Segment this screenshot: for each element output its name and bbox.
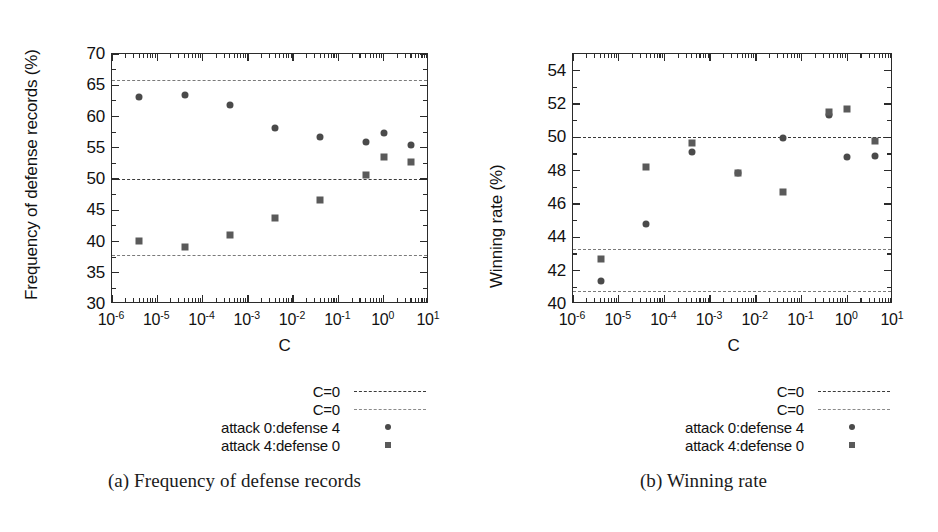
legend-label: attack 0:defense 4 bbox=[685, 419, 818, 436]
x-minor-tick bbox=[279, 54, 280, 58]
x-minor-tick bbox=[245, 298, 246, 302]
y-tick bbox=[420, 147, 427, 148]
y-tick bbox=[573, 103, 580, 104]
x-tick-label: 10-6 bbox=[559, 310, 586, 328]
x-minor-tick bbox=[586, 298, 587, 302]
x-minor-tick bbox=[170, 54, 171, 58]
x-tick bbox=[801, 295, 802, 302]
x-minor-tick bbox=[787, 298, 788, 302]
x-minor-tick bbox=[324, 54, 325, 58]
x-tick bbox=[247, 54, 248, 61]
x-minor-tick bbox=[306, 54, 307, 58]
x-tick-label: 10-5 bbox=[143, 310, 170, 328]
x-minor-tick bbox=[286, 298, 287, 302]
x-minor-tick bbox=[737, 298, 738, 302]
dashed-line-icon bbox=[818, 391, 890, 392]
x-minor-tick bbox=[616, 298, 617, 302]
x-minor-tick bbox=[424, 298, 425, 302]
x-minor-tick bbox=[594, 298, 595, 302]
legend-key-circle-marker bbox=[818, 420, 894, 434]
x-minor-tick bbox=[405, 298, 406, 302]
x-minor-tick bbox=[188, 298, 189, 302]
y-tick bbox=[112, 147, 119, 148]
plot-inner-b bbox=[573, 54, 891, 302]
x-minor-tick bbox=[291, 54, 292, 58]
x-tick bbox=[247, 295, 248, 302]
x-minor-tick bbox=[352, 298, 353, 302]
x-tick-label: 10-3 bbox=[234, 310, 261, 328]
x-tick-label: 10-5 bbox=[604, 310, 631, 328]
x-minor-tick bbox=[229, 298, 230, 302]
data-point-square bbox=[643, 164, 650, 171]
reference-line bbox=[573, 291, 891, 292]
x-tick-label: 10-2 bbox=[742, 310, 769, 328]
legend-a: C=0 C=0 attack 0:defense 4 attack 4:defe… bbox=[100, 382, 430, 454]
dashed-line-icon bbox=[354, 391, 426, 392]
x-minor-tick bbox=[882, 54, 883, 58]
x-minor-tick bbox=[320, 54, 321, 58]
x-minor-tick bbox=[705, 54, 706, 58]
y-minor-tick bbox=[423, 194, 427, 195]
y-tick bbox=[573, 203, 580, 204]
x-minor-tick bbox=[751, 298, 752, 302]
data-point-circle bbox=[780, 135, 787, 142]
x-minor-tick bbox=[794, 54, 795, 58]
y-tick bbox=[112, 116, 119, 117]
data-point-square bbox=[380, 153, 387, 160]
y-minor-tick bbox=[573, 153, 577, 154]
x-tick bbox=[112, 295, 113, 302]
y-tick-labels-b: 4042444648505254 bbox=[521, 53, 566, 303]
x-minor-tick bbox=[333, 54, 334, 58]
x-minor-tick bbox=[184, 298, 185, 302]
x-minor-tick bbox=[125, 298, 126, 302]
y-minor-tick bbox=[573, 253, 577, 254]
x-minor-tick bbox=[125, 54, 126, 58]
x-minor-tick bbox=[139, 298, 140, 302]
x-minor-tick bbox=[699, 298, 700, 302]
y-tick-label: 55 bbox=[86, 138, 105, 155]
x-minor-tick bbox=[787, 54, 788, 58]
y-minor-tick bbox=[887, 87, 891, 88]
x-minor-tick bbox=[198, 298, 199, 302]
x-minor-tick bbox=[616, 54, 617, 58]
y-tick-label: 45 bbox=[86, 201, 105, 218]
x-minor-tick bbox=[152, 298, 153, 302]
legend-label: C=0 bbox=[313, 383, 354, 400]
data-point-square bbox=[844, 106, 851, 113]
y-tick-label: 40 bbox=[547, 295, 566, 312]
x-minor-tick bbox=[837, 298, 838, 302]
x-minor-tick bbox=[731, 298, 732, 302]
x-minor-tick bbox=[234, 298, 235, 302]
x-minor-tick bbox=[170, 298, 171, 302]
x-minor-tick bbox=[243, 298, 244, 302]
reference-line bbox=[573, 249, 891, 250]
x-minor-tick bbox=[188, 54, 189, 58]
x-minor-tick bbox=[723, 298, 724, 302]
subcaption-b: (b) Winning rate bbox=[469, 470, 938, 492]
x-minor-tick bbox=[748, 298, 749, 302]
y-minor-tick bbox=[112, 100, 116, 101]
x-minor-tick bbox=[216, 54, 217, 58]
circle-marker-icon bbox=[385, 424, 391, 430]
x-minor-tick bbox=[426, 54, 427, 58]
y-tick bbox=[884, 270, 891, 271]
x-minor-tick bbox=[376, 54, 377, 58]
x-minor-tick bbox=[890, 54, 891, 58]
x-tick-label: 10-1 bbox=[324, 310, 351, 328]
x-minor-tick bbox=[731, 54, 732, 58]
x-minor-tick bbox=[370, 298, 371, 302]
x-minor-tick bbox=[632, 54, 633, 58]
x-minor-tick bbox=[799, 54, 800, 58]
x-minor-tick bbox=[133, 54, 134, 58]
x-tick-label: 10-4 bbox=[650, 310, 677, 328]
plot-inner-a bbox=[112, 54, 427, 302]
data-point-square bbox=[226, 231, 233, 238]
x-minor-tick bbox=[178, 298, 179, 302]
x-minor-tick bbox=[275, 298, 276, 302]
x-minor-tick bbox=[829, 54, 830, 58]
y-tick bbox=[420, 272, 427, 273]
data-point-square bbox=[272, 215, 279, 222]
data-point-circle bbox=[136, 93, 143, 100]
x-minor-tick bbox=[885, 54, 886, 58]
data-point-square bbox=[780, 188, 787, 195]
